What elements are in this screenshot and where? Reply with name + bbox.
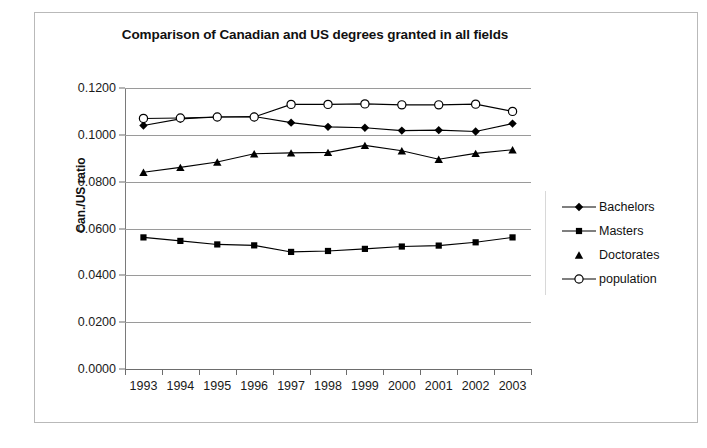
y-tick-label: 0.0600: [78, 222, 116, 236]
legend-label: population: [599, 272, 657, 286]
y-tick-label: 0.1000: [78, 128, 116, 142]
legend-marker-filled-square-icon: [559, 222, 599, 240]
x-tick-label: 2001: [425, 379, 453, 393]
data-point: [176, 114, 184, 122]
legend-label: Masters: [599, 224, 643, 238]
x-tick-mark: [273, 369, 274, 375]
x-tick-label: 1998: [314, 379, 342, 393]
x-tick-mark: [236, 369, 237, 375]
data-point: [177, 238, 183, 244]
chart-title: Comparison of Canadian and US degrees gr…: [35, 27, 595, 42]
data-point: [325, 248, 331, 254]
data-point: [140, 234, 146, 240]
x-tick-mark: [199, 369, 200, 375]
y-tick-label: 0.0800: [78, 175, 116, 189]
data-point: [214, 241, 220, 247]
legend-item-population[interactable]: population: [559, 267, 689, 291]
legend-divider: [545, 191, 546, 295]
data-point: [435, 126, 443, 134]
x-tick-label: 1996: [240, 379, 268, 393]
data-point: [399, 243, 405, 249]
data-point: [509, 234, 515, 240]
series-population: [139, 100, 516, 123]
data-point: [324, 100, 332, 108]
data-point: [361, 124, 369, 132]
plot-area: 0.00000.02000.04000.06000.08000.10000.12…: [125, 88, 531, 369]
data-point: [398, 101, 406, 109]
x-tick-label: 1995: [203, 379, 231, 393]
x-tick-mark: [457, 369, 458, 375]
data-point: [213, 113, 221, 121]
series-bachelors: [139, 112, 516, 135]
data-point: [251, 242, 257, 248]
data-point: [471, 127, 479, 135]
legend-item-masters[interactable]: Masters: [559, 219, 689, 243]
legend-item-doctorates[interactable]: Doctorates: [559, 243, 689, 267]
series-plot: [125, 88, 531, 369]
data-point: [361, 100, 369, 108]
gridline: [125, 369, 531, 370]
x-tick-mark: [310, 369, 311, 375]
chart-legend: BachelorsMastersDoctoratespopulation: [559, 195, 689, 291]
legend-marker-filled-triangle-icon: [559, 246, 599, 264]
data-point: [287, 100, 295, 108]
data-point: [139, 114, 147, 122]
x-tick-mark: [125, 369, 126, 375]
y-tick-label: 0.0000: [78, 362, 116, 376]
y-tick-label: 0.0400: [78, 268, 116, 282]
x-tick-mark: [383, 369, 384, 375]
x-tick-label: 1993: [130, 379, 158, 393]
y-tick-label: 0.1200: [78, 81, 116, 95]
x-tick-mark: [531, 369, 532, 375]
x-tick-mark: [162, 369, 163, 375]
x-tick-label: 2000: [388, 379, 416, 393]
data-point: [398, 126, 406, 134]
data-point: [436, 242, 442, 248]
data-point: [362, 246, 368, 252]
legend-label: Bachelors: [599, 200, 655, 214]
y-axis-title: Can./US ratio: [74, 135, 88, 255]
data-point: [435, 101, 443, 109]
data-point: [287, 118, 295, 126]
data-point: [508, 119, 516, 127]
series-masters: [140, 234, 515, 255]
legend-label: Doctorates: [599, 248, 659, 262]
x-tick-mark: [494, 369, 495, 375]
figure-frame: Comparison of Canadian and US degrees gr…: [34, 12, 698, 423]
data-point: [508, 107, 516, 115]
series-doctorates: [139, 142, 516, 176]
x-tick-label: 2003: [499, 379, 527, 393]
data-point: [288, 249, 294, 255]
x-tick-label: 2002: [462, 379, 490, 393]
x-tick-mark: [420, 369, 421, 375]
x-tick-label: 1997: [277, 379, 305, 393]
y-tick-label: 0.0200: [78, 315, 116, 329]
legend-marker-open-circle-icon: [559, 270, 599, 288]
data-point: [324, 123, 332, 131]
legend-marker-filled-diamond-icon: [559, 198, 599, 216]
x-tick-mark: [346, 369, 347, 375]
data-point: [250, 113, 258, 121]
figure-caption: [36, 433, 676, 445]
legend-item-bachelors[interactable]: Bachelors: [559, 195, 689, 219]
data-point: [472, 100, 480, 108]
data-point: [473, 239, 479, 245]
x-tick-label: 1999: [351, 379, 379, 393]
x-tick-label: 1994: [166, 379, 194, 393]
